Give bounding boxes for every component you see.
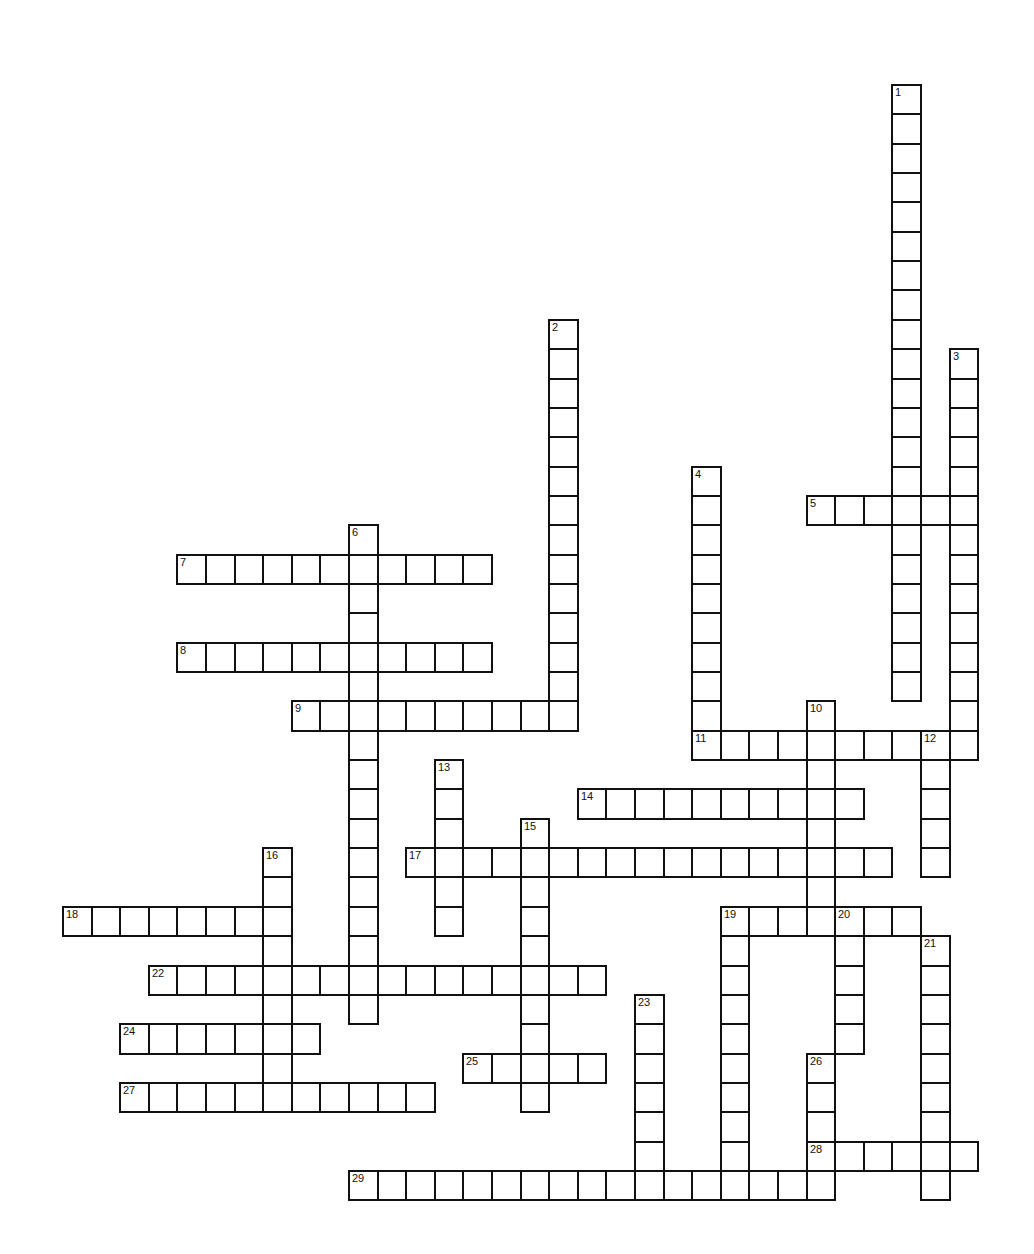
- crossword-cell[interactable]: [348, 935, 379, 967]
- crossword-cell[interactable]: [262, 1023, 293, 1055]
- crossword-cell[interactable]: [605, 788, 636, 820]
- crossword-cell[interactable]: 12: [920, 730, 951, 761]
- crossword-cell[interactable]: [891, 143, 922, 174]
- crossword-cell[interactable]: [834, 495, 865, 526]
- crossword-cell[interactable]: [520, 1170, 550, 1201]
- crossword-cell[interactable]: [720, 935, 750, 967]
- crossword-cell[interactable]: [348, 759, 379, 790]
- crossword-cell[interactable]: [148, 1082, 178, 1113]
- crossword-cell[interactable]: [262, 876, 293, 908]
- crossword-cell[interactable]: [577, 1170, 607, 1201]
- crossword-cell[interactable]: 4: [691, 466, 722, 497]
- crossword-cell[interactable]: 14: [577, 788, 607, 820]
- crossword-cell[interactable]: [548, 466, 579, 497]
- crossword-cell[interactable]: [949, 583, 979, 614]
- crossword-cell[interactable]: [863, 730, 893, 761]
- crossword-cell[interactable]: [777, 788, 808, 820]
- crossword-cell[interactable]: 15: [520, 818, 550, 849]
- crossword-cell[interactable]: [520, 876, 550, 908]
- crossword-cell[interactable]: [405, 965, 436, 996]
- crossword-cell[interactable]: [691, 524, 722, 556]
- crossword-cell[interactable]: [920, 1111, 951, 1143]
- crossword-cell[interactable]: [748, 1170, 779, 1201]
- crossword-cell[interactable]: [434, 788, 464, 820]
- crossword-cell[interactable]: [634, 1111, 665, 1143]
- crossword-cell[interactable]: [348, 612, 379, 644]
- crossword-cell[interactable]: [548, 671, 579, 702]
- crossword-cell[interactable]: [720, 1111, 750, 1143]
- crossword-cell[interactable]: [834, 965, 865, 996]
- crossword-cell[interactable]: [920, 1053, 951, 1084]
- crossword-cell[interactable]: [891, 583, 922, 614]
- crossword-cell[interactable]: [777, 730, 808, 761]
- crossword-cell[interactable]: [891, 612, 922, 644]
- crossword-cell[interactable]: [405, 700, 436, 732]
- crossword-cell[interactable]: [891, 231, 922, 262]
- crossword-cell[interactable]: [949, 700, 979, 732]
- crossword-cell[interactable]: [691, 495, 722, 526]
- crossword-cell[interactable]: [434, 642, 464, 673]
- crossword-cell[interactable]: [262, 965, 293, 996]
- crossword-cell[interactable]: [634, 1082, 665, 1113]
- crossword-cell[interactable]: [720, 965, 750, 996]
- crossword-cell[interactable]: [891, 554, 922, 585]
- crossword-cell[interactable]: 13: [434, 759, 464, 790]
- crossword-cell[interactable]: [634, 788, 665, 820]
- crossword-cell[interactable]: [949, 378, 979, 409]
- crossword-cell[interactable]: [348, 554, 379, 585]
- crossword-cell[interactable]: [119, 906, 150, 937]
- crossword-cell[interactable]: [377, 965, 407, 996]
- crossword-cell[interactable]: [920, 994, 951, 1025]
- crossword-cell[interactable]: [348, 876, 379, 908]
- crossword-cell[interactable]: [891, 172, 922, 203]
- crossword-cell[interactable]: [605, 1170, 636, 1201]
- crossword-cell[interactable]: [319, 554, 350, 585]
- crossword-cell[interactable]: [348, 906, 379, 937]
- crossword-cell[interactable]: [491, 965, 522, 996]
- crossword-cell[interactable]: [834, 1023, 865, 1055]
- crossword-cell[interactable]: [863, 1141, 893, 1172]
- crossword-cell[interactable]: [205, 906, 236, 937]
- crossword-cell[interactable]: [949, 554, 979, 585]
- crossword-cell[interactable]: [834, 1141, 865, 1172]
- crossword-cell[interactable]: [920, 818, 951, 849]
- crossword-cell[interactable]: [748, 847, 779, 878]
- crossword-cell[interactable]: [777, 906, 808, 937]
- crossword-cell[interactable]: [720, 1053, 750, 1084]
- crossword-cell[interactable]: [834, 788, 865, 820]
- crossword-cell[interactable]: 3: [949, 348, 979, 380]
- crossword-cell[interactable]: [806, 906, 836, 937]
- crossword-cell[interactable]: [348, 788, 379, 820]
- crossword-cell[interactable]: [377, 642, 407, 673]
- crossword-cell[interactable]: [262, 642, 293, 673]
- crossword-cell[interactable]: [291, 642, 321, 673]
- crossword-cell[interactable]: [949, 642, 979, 673]
- crossword-cell[interactable]: 18: [62, 906, 93, 937]
- crossword-cell[interactable]: 23: [634, 994, 665, 1025]
- crossword-cell[interactable]: [205, 554, 236, 585]
- crossword-cell[interactable]: [691, 583, 722, 614]
- crossword-cell[interactable]: 6: [348, 524, 379, 556]
- crossword-cell[interactable]: [548, 1053, 579, 1084]
- crossword-cell[interactable]: [176, 1023, 207, 1055]
- crossword-cell[interactable]: [205, 1082, 236, 1113]
- crossword-cell[interactable]: [520, 847, 550, 878]
- crossword-cell[interactable]: [176, 906, 207, 937]
- crossword-cell[interactable]: [348, 994, 379, 1025]
- crossword-cell[interactable]: [262, 935, 293, 967]
- crossword-cell[interactable]: [891, 378, 922, 409]
- crossword-cell[interactable]: 11: [691, 730, 722, 761]
- crossword-cell[interactable]: [176, 1082, 207, 1113]
- crossword-cell[interactable]: [577, 965, 607, 996]
- crossword-cell[interactable]: [891, 730, 922, 761]
- crossword-cell[interactable]: [377, 1082, 407, 1113]
- crossword-cell[interactable]: [234, 1023, 264, 1055]
- crossword-cell[interactable]: [634, 1023, 665, 1055]
- crossword-cell[interactable]: [434, 847, 464, 878]
- crossword-cell[interactable]: [777, 847, 808, 878]
- crossword-cell[interactable]: [462, 847, 493, 878]
- crossword-cell[interactable]: [491, 1053, 522, 1084]
- crossword-cell[interactable]: [520, 994, 550, 1025]
- crossword-cell[interactable]: [548, 378, 579, 409]
- crossword-cell[interactable]: [891, 466, 922, 497]
